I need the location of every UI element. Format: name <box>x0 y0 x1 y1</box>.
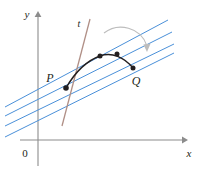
tangent-secant-figure: y x 0 P Q t <box>0 0 203 171</box>
origin-label: 0 <box>22 147 28 159</box>
y-axis-label: y <box>24 8 30 20</box>
motion-arrowhead <box>143 43 150 52</box>
x-axis-arrowhead <box>182 137 188 144</box>
curve-point-1 <box>98 54 103 59</box>
point-q-label: Q <box>132 74 141 88</box>
point-p-label: P <box>45 71 54 85</box>
x-axis-label: x <box>186 147 192 159</box>
y-axis-arrowhead <box>35 11 42 17</box>
secant-line-1 <box>5 53 174 137</box>
axes-group <box>20 11 188 166</box>
secant-line-2 <box>5 44 174 126</box>
curve-point-2 <box>115 52 120 57</box>
secant-lines-group <box>5 20 174 137</box>
figure-canvas: y x 0 P Q t <box>0 0 203 171</box>
tangent-line-label: t <box>78 18 81 29</box>
point-q-marker <box>131 66 136 71</box>
motion-arrow-arc <box>104 27 151 52</box>
point-p-marker <box>63 85 69 91</box>
